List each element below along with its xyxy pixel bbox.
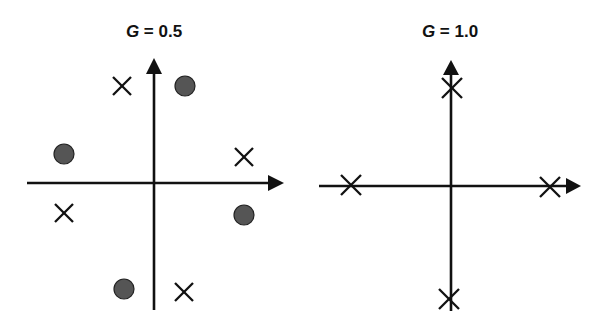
arrow-right-icon (566, 178, 581, 194)
pole-marker-icon (235, 148, 253, 166)
zero-marker-icon (175, 76, 195, 96)
pole-marker-icon (175, 283, 193, 301)
panel-title: G = 0.5 (126, 22, 182, 41)
panel-title: G = 1.0 (422, 22, 478, 41)
panel-g-1-0: G = 1.0 (319, 22, 581, 311)
title-value: = 0.5 (139, 22, 182, 41)
pole-marker-icon (113, 77, 131, 95)
zero-marker-icon (114, 279, 134, 299)
arrow-up-icon (146, 58, 162, 74)
title-value: = 1.0 (435, 22, 478, 41)
title-variable: G (126, 22, 139, 41)
pole-marker-icon (439, 289, 459, 309)
arrow-right-icon (268, 175, 284, 191)
pole-marker-icon (55, 204, 73, 222)
zero-marker-icon (234, 205, 254, 225)
title-variable: G (422, 22, 435, 41)
zero-marker-icon (54, 144, 74, 164)
panel-g-0-5: G = 0.5 (27, 22, 284, 310)
pole-zero-diagram: G = 0.5 G = 1.0 (0, 0, 598, 328)
arrow-up-icon (443, 60, 459, 75)
